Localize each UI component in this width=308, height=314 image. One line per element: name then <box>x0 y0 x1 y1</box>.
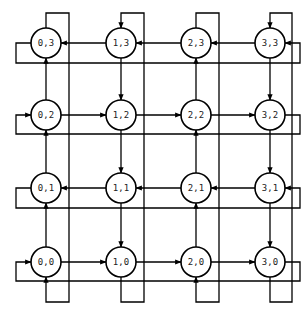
node-label: 1,0 <box>113 257 129 267</box>
node-label: 2,1 <box>188 183 204 193</box>
node-0-1: 0,1 <box>31 173 61 203</box>
node-1-2: 1,2 <box>106 100 136 130</box>
node-label: 2,3 <box>188 38 204 48</box>
node-label: 0,1 <box>38 183 54 193</box>
node-label: 0,3 <box>38 38 54 48</box>
node-label: 1,2 <box>113 110 129 120</box>
node-label: 2,2 <box>188 110 204 120</box>
node-3-2: 3,2 <box>255 100 285 130</box>
node-3-0: 3,0 <box>255 247 285 277</box>
node-0-2: 0,2 <box>31 100 61 130</box>
node-2-0: 2,0 <box>181 247 211 277</box>
torus-diagram: 0,01,02,03,00,11,12,13,10,21,22,23,20,31… <box>0 0 308 314</box>
node-label: 0,2 <box>38 110 54 120</box>
node-3-3: 3,3 <box>255 28 285 58</box>
node-label: 3,0 <box>262 257 278 267</box>
node-2-3: 2,3 <box>181 28 211 58</box>
node-label: 3,1 <box>262 183 278 193</box>
node-label: 2,0 <box>188 257 204 267</box>
node-label: 1,3 <box>113 38 129 48</box>
diagram-svg: 0,01,02,03,00,11,12,13,10,21,22,23,20,31… <box>0 0 308 314</box>
node-label: 3,3 <box>262 38 278 48</box>
node-label: 0,0 <box>38 257 54 267</box>
node-label: 3,2 <box>262 110 278 120</box>
node-1-0: 1,0 <box>106 247 136 277</box>
node-3-1: 3,1 <box>255 173 285 203</box>
node-2-2: 2,2 <box>181 100 211 130</box>
node-1-1: 1,1 <box>106 173 136 203</box>
node-0-0: 0,0 <box>31 247 61 277</box>
node-label: 1,1 <box>113 183 129 193</box>
node-0-3: 0,3 <box>31 28 61 58</box>
node-2-1: 2,1 <box>181 173 211 203</box>
node-1-3: 1,3 <box>106 28 136 58</box>
